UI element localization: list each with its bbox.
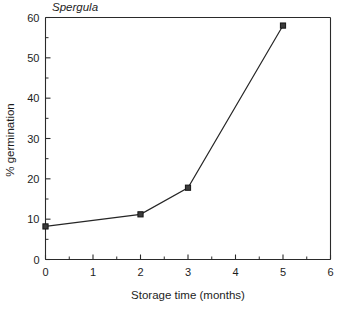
y-tick-label: 0 [33,254,39,266]
x-tick-label: 4 [232,266,238,278]
chart-background [0,0,346,309]
x-tick-label: 6 [327,266,333,278]
plot-title: Spergula [52,1,98,13]
y-tick-label: 30 [27,133,39,145]
y-tick-label: 60 [27,12,39,24]
x-axis-title: Storage time (months) [131,289,245,301]
y-tick-label: 10 [27,213,39,225]
x-tick-label: 1 [90,266,96,278]
y-tick-label: 50 [27,52,39,64]
data-point-marker [280,23,285,28]
y-tick-label: 40 [27,92,39,104]
data-point-marker [43,224,48,229]
germination-line-chart: 0102030405060 0123456 Spergula Storage t… [0,0,346,309]
y-axis-title: % germination [4,103,16,177]
x-tick-label: 2 [137,266,143,278]
data-point-marker [138,212,143,217]
x-tick-label: 0 [42,266,48,278]
chart-figure: 0102030405060 0123456 Spergula Storage t… [0,0,346,309]
data-point-marker [185,185,190,190]
x-tick-label: 5 [280,266,286,278]
x-tick-label: 3 [185,266,191,278]
y-tick-label: 20 [27,173,39,185]
